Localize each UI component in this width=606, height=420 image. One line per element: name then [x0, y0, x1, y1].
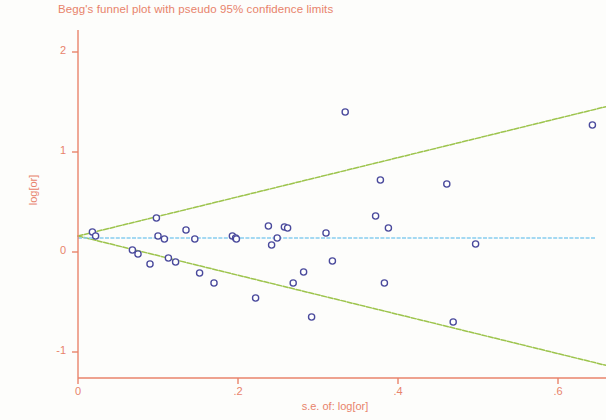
y-axis-title: log[or] — [27, 150, 39, 230]
x-tick-label: .6 — [543, 385, 573, 397]
data-point — [342, 109, 348, 115]
data-point — [165, 255, 171, 261]
data-point — [373, 213, 379, 219]
data-point — [377, 177, 383, 183]
data-point — [285, 225, 291, 231]
data-point — [473, 241, 479, 247]
axis-lines — [72, 30, 606, 384]
data-point — [450, 319, 456, 325]
y-tick-label: 1 — [40, 144, 66, 156]
data-point — [197, 270, 203, 276]
data-point — [211, 280, 217, 286]
data-point — [301, 269, 307, 275]
data-point — [192, 236, 198, 242]
data-point — [135, 251, 141, 257]
data-point — [381, 280, 387, 286]
data-point — [93, 233, 99, 239]
y-tick-label: 0 — [40, 244, 66, 256]
data-point — [155, 233, 161, 239]
data-point — [323, 230, 329, 236]
plot-canvas — [0, 0, 606, 420]
x-tick-label: .4 — [383, 385, 413, 397]
data-point — [444, 181, 450, 187]
data-point — [233, 236, 239, 242]
data-point — [589, 122, 595, 128]
x-axis-title: s.e. of: log[or] — [0, 400, 606, 412]
data-point — [269, 242, 275, 248]
data-point — [183, 227, 189, 233]
funnel-plot: Begg's funnel plot with pseudo 95% confi… — [0, 0, 606, 420]
data-point — [173, 259, 179, 265]
x-tick-label: 0 — [63, 385, 93, 397]
data-point — [147, 261, 153, 267]
data-point — [265, 223, 271, 229]
data-point — [329, 258, 335, 264]
data-points — [89, 109, 595, 325]
data-point — [290, 280, 296, 286]
data-point — [153, 215, 159, 221]
y-tick-label: -1 — [40, 344, 66, 356]
y-tick-label: 2 — [40, 44, 66, 56]
data-point — [274, 235, 280, 241]
data-point — [309, 314, 315, 320]
data-point — [161, 236, 167, 242]
data-point — [253, 295, 259, 301]
data-point — [385, 225, 391, 231]
data-point — [129, 247, 135, 253]
x-tick-label: .2 — [223, 385, 253, 397]
